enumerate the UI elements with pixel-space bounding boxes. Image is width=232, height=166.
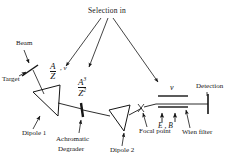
beamline-segment-1 [58,103,82,109]
a3-numerator: A3 [78,77,86,87]
selection-arrow-2 [89,18,108,67]
beam-label: Beam [16,40,32,47]
dipole-2-label: Dipole 2 [110,147,134,154]
beam-arrow [24,50,29,63]
selection-arrow-3 [113,18,158,82]
wien-velocity-label: v [170,84,174,92]
a-over-z-velocity-label: , v [60,65,67,72]
achromatic-degrader-label-line1: Achromatic [56,136,89,143]
wien-filter-label: Wien filter [182,129,212,136]
achromatic-degrader-label-line2: Degrader [58,146,84,153]
beamline-segment-2 [83,110,110,116]
dipole-2-arrow [122,133,124,146]
field-b-label: B [168,121,173,130]
focal-point-marker [138,104,144,112]
target-label: Target [2,76,20,83]
achromatic-degrader-slab [81,103,83,117]
a3-over-z2-ratio: A3 Z2 [78,77,86,98]
detection-label: Detection [196,83,223,90]
dipole-1-magnet [33,85,60,116]
z2-denominator: Z2 [78,87,86,98]
selection-label: Selection in [88,7,126,15]
wien-filter-arrow [186,110,190,128]
a-over-z-denominator: Z [50,71,56,81]
selection-arrow-1 [66,18,101,66]
a-over-z-numerator: A [50,62,56,71]
degrader-arrow [79,120,81,133]
beamline-segment-4 [144,104,156,107]
dipole-2-magnet [109,105,130,131]
diagram-canvas: Selection in Beam Target A Z , v A3 Z2 v… [0,0,232,166]
dipole-1-label: Dipole 1 [22,130,46,137]
dipole-1-arrow [33,116,40,129]
focal-point-arrow [143,113,147,127]
field-labels-group: E , B [158,122,173,130]
a-over-z-ratio: A Z [50,62,56,81]
target-foil [22,65,38,76]
